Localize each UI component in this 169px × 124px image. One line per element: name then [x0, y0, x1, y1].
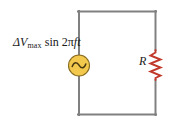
source-label-subscript: max	[27, 41, 41, 50]
source-voltage-label: ΔVmaxsin 2πft	[13, 36, 81, 50]
circuit-diagram: ΔVmaxsin 2πft R	[0, 0, 169, 124]
resistor-icon	[151, 50, 161, 80]
source-label-frequency: ft	[74, 35, 81, 49]
resistor-label: R	[139, 55, 146, 67]
source-label-function: sin 2	[45, 35, 68, 49]
source-label-variable: ΔV	[13, 35, 27, 49]
